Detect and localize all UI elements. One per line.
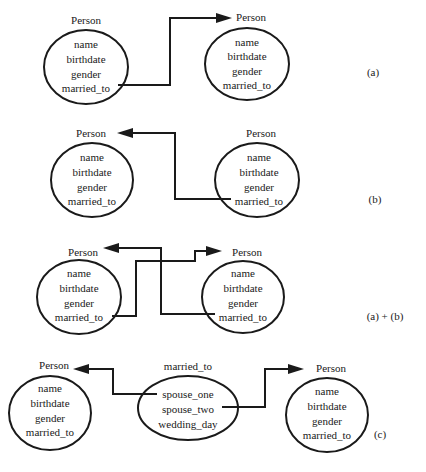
attr-married-to: married_to [55,311,104,323]
attr-name: name [247,151,271,163]
attr-gender: gender [71,68,101,80]
spouse-one-arrow [73,364,157,394]
attr-spouse-two: spouse_two [162,403,214,415]
attr-married-to: married_to [68,195,117,207]
entity-title: Person [68,246,98,258]
panel-b: Person name birthdate gender married_to … [51,127,382,217]
entity-title: Person [39,359,69,371]
arrowhead-icon [117,128,133,138]
attr-birthdate: birthdate [72,166,111,178]
person-entity-c-right: Person name birthdate gender married_to [286,362,368,452]
arrowhead-icon [206,246,222,256]
attr-birthdate: birthdate [223,282,262,294]
arrowhead-icon [288,364,304,374]
arrowhead-icon [103,243,119,253]
married-to-arrow-b [117,128,231,199]
attr-name: name [74,38,98,50]
attr-birthdate: birthdate [227,50,266,62]
person-entity-b-right: Person name birthdate gender married_to [215,127,299,217]
attr-wedding-day: wedding_day [158,418,218,430]
person-entity-a-left: Person name birthdate gender married_to [44,14,128,104]
attr-gender: gender [64,297,94,309]
entity-title: Person [232,246,262,258]
panel-label: (a) + (b) [367,310,404,323]
er-diagram: Person name birthdate gender married_to … [0,0,426,472]
person-entity-c-left: Person name birthdate gender married_to [9,359,91,450]
entity-title: Person [316,362,346,374]
person-entity-b-left: Person name birthdate gender married_to [51,127,133,217]
person-entity-ab-right: Person name birthdate gender married_to [202,246,284,333]
spouse-two-arrow [222,364,304,407]
attr-married-to: married_to [223,79,272,91]
panel-label: (b) [369,193,382,206]
attr-name: name [235,36,259,48]
attr-gender: gender [35,412,65,424]
attr-gender: gender [228,297,258,309]
attr-gender: gender [77,181,107,193]
attr-gender: gender [232,65,262,77]
person-entity-a-right: Person name birthdate gender married_to [205,11,289,100]
attr-married-to: married_to [26,426,75,438]
panel-a: Person name birthdate gender married_to … [44,11,379,104]
attr-name: name [315,385,339,397]
relationship-title: married_to [164,360,213,372]
attr-birthdate: birthdate [30,397,69,409]
attr-name: name [231,267,255,279]
entity-title: Person [246,127,276,139]
attr-birthdate: birthdate [307,400,346,412]
relationship-married-to: married_to spouse_one spouse_two wedding… [138,360,238,440]
attr-birthdate: birthdate [66,53,105,65]
attr-name: name [38,382,62,394]
attr-married-to: married_to [219,311,268,323]
attr-birthdate: birthdate [239,166,278,178]
entity-title: Person [236,11,266,23]
person-entity-ab-left: Person name birthdate gender married_to [37,246,121,334]
attr-married-to: married_to [62,82,111,94]
attr-married-to: married_to [303,429,352,441]
married-to-arrow-a [118,13,232,85]
entity-title: Person [71,14,101,26]
attr-birthdate: birthdate [59,282,98,294]
arrowhead-icon [216,13,232,23]
panel-c: Person name birthdate gender married_to … [9,359,386,452]
attr-name: name [67,267,91,279]
attr-gender: gender [244,181,274,193]
attr-name: name [80,151,104,163]
entity-title: Person [76,127,106,139]
attr-spouse-one: spouse_one [162,388,213,400]
attr-gender: gender [312,415,342,427]
panel-label: (a) [367,66,380,79]
arrowhead-icon [73,364,89,374]
panel-a-plus-b: Person name birthdate gender married_to … [37,243,404,334]
attr-married-to: married_to [235,195,284,207]
panel-label: (c) [374,428,387,441]
